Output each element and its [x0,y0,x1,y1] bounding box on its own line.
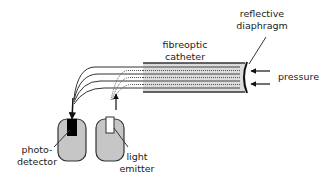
label-photo: photo- [21,144,52,155]
label-fibreoptic: fibreoptic [163,39,208,50]
light-emitter [96,117,128,161]
diaphragm-leader-line [249,37,266,64]
label-diaphragm: diaphragm [236,20,288,31]
arrow-to-photodetector [72,98,73,119]
photodetector [54,119,86,161]
label-reflective: reflective [240,8,285,19]
label-detector: detector [17,156,57,167]
label-catheter: catheter [165,51,205,62]
label-emitter: emitter [120,163,155,174]
reflective-diaphragm [244,62,247,93]
fibreoptic-catheter [143,63,245,92]
diagram-canvas: reflective diaphragm fibreoptic catheter… [0,0,330,181]
label-pressure: pressure [278,71,319,82]
receiving-fibres [74,67,143,104]
label-light: light [126,151,147,162]
